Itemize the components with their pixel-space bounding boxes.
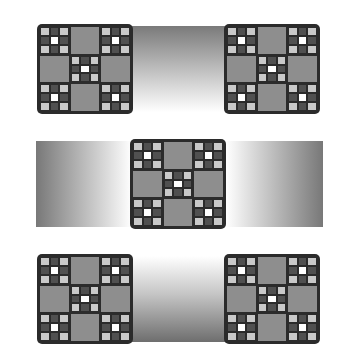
checker-square [41,85,49,92]
checker-square [228,267,236,274]
checker-square [112,333,120,340]
checker-patch [258,286,287,313]
checker-square [238,28,246,35]
checker-square [144,152,152,159]
checker-square [268,66,276,73]
checker-square [121,103,129,110]
checker-square [102,85,110,92]
checker-square [228,324,236,331]
checker-square [41,258,49,265]
checker-square [289,324,297,331]
checker-square [238,94,246,101]
checker-square [72,57,80,64]
checker-square [278,296,286,303]
checker-square [41,28,49,35]
checker-square [259,74,267,81]
checker-patch [101,314,130,341]
checker-square [72,66,80,73]
checker-square [112,37,120,44]
checker-square [289,28,297,35]
checker-square [247,46,255,53]
checker-square [299,37,307,44]
checker-square [121,315,129,322]
quilt-block-bottom-right [224,254,320,344]
quilt-block-bottom-left [37,254,133,344]
checker-patch [227,84,256,111]
checker-square [51,46,59,53]
checker-square [228,28,236,35]
checker-square [308,333,316,340]
checker-square [153,161,161,168]
checker-square [72,287,80,294]
plain-cell [71,27,100,54]
checker-square [41,333,49,340]
checker-square [72,296,80,303]
checker-square [299,258,307,265]
checker-square [195,200,203,207]
checker-square [112,315,120,322]
plain-cell [71,257,100,284]
checker-square [278,304,286,311]
top-gradient-band [130,26,228,112]
checker-square [60,85,68,92]
checker-square [102,324,110,331]
checker-patch [258,56,287,83]
checker-patch [288,84,317,111]
checker-square [174,189,182,196]
checker-square [41,94,49,101]
checker-patch [288,257,317,284]
checker-square [259,296,267,303]
checker-square [247,324,255,331]
checker-square [153,209,161,216]
checker-square [102,258,110,265]
checker-square [144,218,152,225]
checker-square [195,143,203,150]
checker-square [102,37,110,44]
checker-square [299,85,307,92]
checker-square [91,304,99,311]
checker-square [247,85,255,92]
checker-square [91,57,99,64]
checker-square [60,315,68,322]
checker-square [299,315,307,322]
checker-patch [164,171,193,198]
checker-square [91,66,99,73]
checker-square [121,46,129,53]
checker-patch [227,314,256,341]
checker-square [102,333,110,340]
checker-square [51,258,59,265]
checker-patch [40,314,69,341]
checker-square [121,94,129,101]
plain-cell [133,171,162,198]
checker-patch [101,27,130,54]
checker-square [247,333,255,340]
checker-square [259,304,267,311]
checker-square [238,85,246,92]
checker-square [278,74,286,81]
checker-square [153,200,161,207]
checker-square [228,103,236,110]
checker-square [112,258,120,265]
checker-square [299,94,307,101]
plain-cell [71,314,100,341]
checker-patch [194,142,223,169]
checker-square [289,103,297,110]
checker-square [289,258,297,265]
checker-square [51,94,59,101]
plain-cell [40,286,69,313]
checker-square [308,258,316,265]
checker-square [51,276,59,283]
checker-square [238,103,246,110]
checker-square [289,267,297,274]
checker-square [214,161,222,168]
checker-square [174,172,182,179]
middle-left-gradient-band [36,141,132,227]
checker-square [268,74,276,81]
checker-square [81,304,89,311]
checker-square [238,333,246,340]
checker-square [214,218,222,225]
checker-square [289,46,297,53]
checker-square [72,304,80,311]
checker-square [51,103,59,110]
plain-cell [101,56,130,83]
